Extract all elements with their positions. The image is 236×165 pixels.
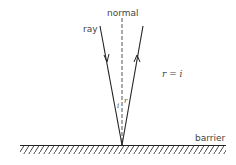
angle-r-label: r: [124, 98, 127, 105]
incident-ray: [100, 26, 122, 145]
normal-label: normal: [107, 9, 139, 18]
incident-arrow-icon: [104, 54, 109, 62]
reflected-ray: [122, 26, 143, 145]
angle-i-label: i: [117, 103, 119, 110]
ray-label: ray: [83, 25, 98, 34]
equation-label: r = i: [162, 70, 182, 79]
barrier-hatching: [20, 146, 226, 154]
barrier-label: barrier: [195, 134, 225, 143]
